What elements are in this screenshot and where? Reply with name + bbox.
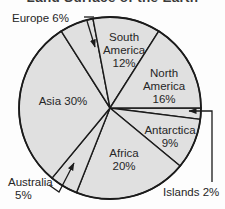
label-europe: Europe 6% <box>12 12 69 24</box>
land-surface-pie-chart: Islands 2%Antarctica9%Africa20%Australia… <box>0 0 225 209</box>
label-islands: Islands 2% <box>163 186 219 198</box>
label-asia: Asia 30% <box>39 95 88 107</box>
label-africa: Africa20% <box>109 147 139 172</box>
label-australia: Australia5% <box>8 176 53 201</box>
pie-chart-figure: Land Surface of the Earth Islands 2%Anta… <box>0 0 225 209</box>
